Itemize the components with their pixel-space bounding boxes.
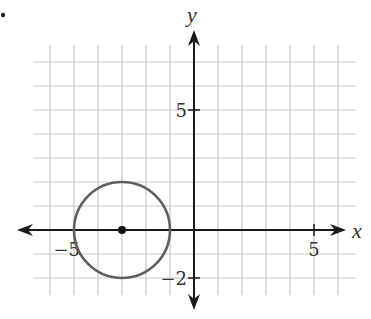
x-tick-label: 5 — [308, 239, 319, 260]
problem-bullet-icon — [1, 13, 5, 17]
axis-ticks: −555−2 — [53, 100, 319, 289]
coordinate-plane: −555−2 x y — [0, 0, 371, 319]
y-tick-label: 5 — [176, 100, 187, 121]
y-tick-label: −2 — [160, 268, 187, 289]
y-axis-label: y — [185, 2, 197, 27]
axis-labels: x y — [185, 2, 362, 243]
circle-center-point — [118, 226, 126, 234]
x-axis-label: x — [351, 218, 362, 243]
